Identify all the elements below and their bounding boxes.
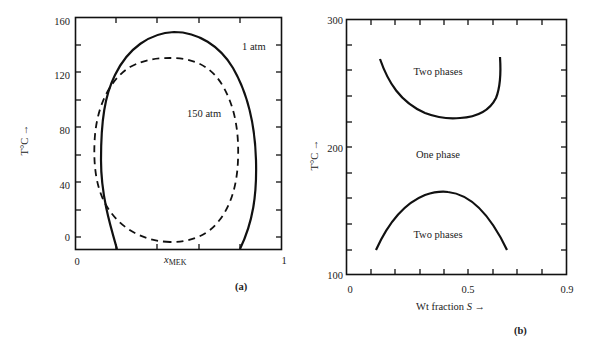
panel-a-label: (a) <box>235 281 248 293</box>
panel-a-x-tick-0: 0 <box>74 256 79 267</box>
panel-a-y-axis-title: T°C → <box>19 125 30 156</box>
panel-a-y-tick-160: 160 <box>54 16 70 27</box>
panel-b-x-tick-0-5: 0.5 <box>461 284 474 295</box>
region-label-upper-two-phases: Two phases <box>413 66 462 77</box>
panel-b-y-axis-title: T°C → <box>309 140 320 171</box>
region-label-lower-two-phases: Two phases <box>413 229 462 240</box>
panel-a-frame <box>76 18 282 250</box>
panel-a-y-tick-0: 0 <box>65 232 70 243</box>
panel-a-x-tick-1: 1 <box>281 255 286 266</box>
label-150-atm: 150 atm <box>187 108 221 119</box>
region-label-one-phase: One phase <box>416 149 460 160</box>
panel-b-y-tick-200: 200 <box>327 143 343 154</box>
panel-a-y-tick-120: 120 <box>54 70 70 81</box>
panel-b: 300 200 100 0 0.5 0.9 Wt fraction S → T°… <box>309 15 574 337</box>
panel-b-y-tick-300: 300 <box>327 15 343 26</box>
panel-a-y-tick-80: 80 <box>60 125 71 136</box>
panel-b-y-tick-100: 100 <box>327 270 343 281</box>
panel-a-y-tick-40: 40 <box>60 180 71 191</box>
curve-150-atm <box>94 58 238 242</box>
panel-a-x-axis-title: xMEK <box>163 254 187 267</box>
mek-subscript: MEK <box>169 258 187 267</box>
panel-b-x-axis-title: Wt fraction S → <box>416 301 485 312</box>
figure-canvas: 160 120 80 40 0 0 1 xMEK T°C → 1 atm 150… <box>0 0 593 351</box>
panel-b-label: (b) <box>514 325 527 337</box>
curve-lower-boundary <box>376 192 507 250</box>
panel-b-x-tick-0-9: 0.9 <box>560 284 573 295</box>
label-1-atm: 1 atm <box>242 41 266 52</box>
curve-1-atm <box>101 32 256 249</box>
wt-fraction-text: Wt fraction <box>416 301 467 312</box>
panel-b-x-tick-0: 0 <box>347 284 352 295</box>
panel-a: 160 120 80 40 0 0 1 xMEK T°C → 1 atm 150… <box>19 16 287 293</box>
